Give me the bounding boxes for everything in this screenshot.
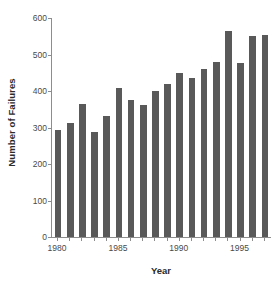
x-axis-tick-mark — [264, 237, 265, 241]
bars-layer — [52, 18, 271, 237]
x-axis-tick-mark — [215, 237, 216, 241]
x-axis-tick-mark — [106, 237, 107, 241]
x-axis-tick-mark — [191, 237, 192, 241]
y-axis-tick-label: 500 — [33, 50, 47, 60]
bar — [249, 36, 256, 237]
y-axis-tick-label: 600 — [33, 13, 47, 23]
x-axis-tick-marks — [51, 237, 271, 242]
x-axis-tick-mark — [81, 237, 82, 241]
y-axis-tick-mark — [48, 164, 52, 165]
x-axis-tick-labels: 1980198519901995 — [51, 243, 271, 257]
y-axis-title: Number of Failures — [0, 0, 22, 245]
x-axis-tick-mark — [130, 237, 131, 241]
x-axis-tick-mark — [167, 237, 168, 241]
y-axis-tick-mark — [48, 18, 52, 19]
bar — [189, 78, 196, 237]
y-axis-tick-label: 300 — [33, 123, 47, 133]
x-axis-tick-mark — [227, 237, 228, 241]
bar — [140, 105, 147, 237]
y-axis-tick-label: 200 — [33, 159, 47, 169]
x-axis-title: Year — [51, 265, 271, 276]
x-axis-tick-mark — [94, 237, 95, 241]
x-axis-tick-mark — [179, 237, 180, 241]
y-axis-tick-mark — [48, 55, 52, 56]
bar — [67, 123, 74, 237]
y-axis-tick-mark — [48, 201, 52, 202]
bar — [91, 132, 98, 237]
x-axis-tick-mark — [69, 237, 70, 241]
y-axis-tick-label: 0 — [42, 232, 47, 242]
bar — [152, 91, 159, 237]
bar — [103, 116, 110, 237]
bar-chart: Number of Failures 0100200300400500600 1… — [0, 0, 279, 295]
bar — [262, 35, 269, 237]
bar — [176, 73, 183, 237]
plot-area — [51, 18, 271, 238]
bar — [164, 84, 171, 237]
y-axis-title-label: Number of Failures — [6, 78, 17, 166]
x-axis-tick-label: 1985 — [108, 243, 127, 253]
y-axis-tick-labels: 0100200300400500600 — [22, 0, 50, 245]
x-axis-tick-mark — [203, 237, 204, 241]
x-axis-tick-mark — [57, 237, 58, 241]
y-axis-tick-mark — [48, 91, 52, 92]
bar — [225, 31, 232, 237]
x-axis-tick-mark — [240, 237, 241, 241]
y-axis-tick-label: 400 — [33, 86, 47, 96]
bar — [116, 88, 123, 237]
x-axis-tick-mark — [118, 237, 119, 241]
x-axis-tick-label: 1980 — [48, 243, 67, 253]
bar — [213, 62, 220, 237]
x-axis-tick-label: 1990 — [169, 243, 188, 253]
bar — [201, 69, 208, 237]
bar — [128, 100, 135, 237]
y-axis-tick-mark — [48, 128, 52, 129]
bar — [55, 130, 62, 237]
x-axis-tick-mark — [252, 237, 253, 241]
x-axis-tick-label: 1995 — [230, 243, 249, 253]
y-axis-tick-label: 100 — [33, 196, 47, 206]
bar — [79, 104, 86, 237]
x-axis-tick-mark — [142, 237, 143, 241]
bar — [237, 63, 244, 237]
x-axis-tick-mark — [154, 237, 155, 241]
